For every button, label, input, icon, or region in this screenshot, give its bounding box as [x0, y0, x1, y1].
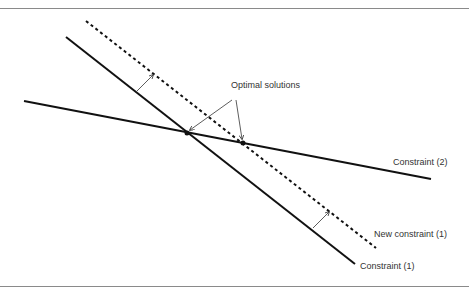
constraint-diagram	[0, 0, 469, 294]
shift-arrow-upper	[137, 75, 153, 91]
new-constraint-1-line	[86, 21, 376, 248]
optimal-point-1	[185, 131, 190, 136]
shift-arrow-lower	[313, 212, 329, 228]
constraint-1-label: Constraint (1)	[360, 261, 415, 271]
optimal-arrow-1	[190, 100, 232, 130]
constraint-2-label: Constraint (2)	[393, 157, 448, 167]
optimal-point-2	[241, 141, 246, 146]
optimal-arrow-2	[236, 100, 242, 139]
constraint-1-line	[66, 37, 355, 264]
new-constraint-1-label: New constraint (1)	[374, 229, 447, 239]
optimal-solutions-label: Optimal solutions	[231, 80, 300, 90]
constraint-2-line	[24, 101, 431, 179]
